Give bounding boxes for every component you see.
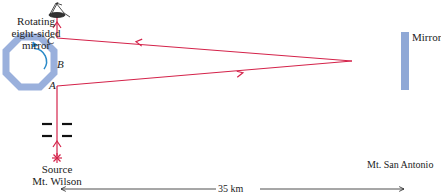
rotating-mirror-label-line1: Rotating xyxy=(2,15,70,27)
far-mirror-label: Mirror xyxy=(412,31,441,43)
far-station-label: Mt. San Antonio xyxy=(367,159,433,171)
rotating-mirror-label: Rotating eight-sided mirror xyxy=(2,15,70,51)
face-b-label: B xyxy=(57,58,64,70)
face-c-label: C xyxy=(47,34,54,46)
source-label-line2: Mt. Wilson xyxy=(25,175,89,187)
rotating-mirror-label-line3: mirror xyxy=(2,39,70,51)
face-a-label: A xyxy=(49,79,56,91)
light-beam xyxy=(57,17,352,156)
source-label-line1: Source xyxy=(25,163,89,175)
far-mirror xyxy=(401,32,409,90)
distance-label: 35 km xyxy=(218,183,243,195)
source-label: Source Mt. Wilson xyxy=(25,163,89,187)
rotating-mirror-label-line2: eight-sided xyxy=(2,27,70,39)
source-star-icon xyxy=(52,153,62,163)
